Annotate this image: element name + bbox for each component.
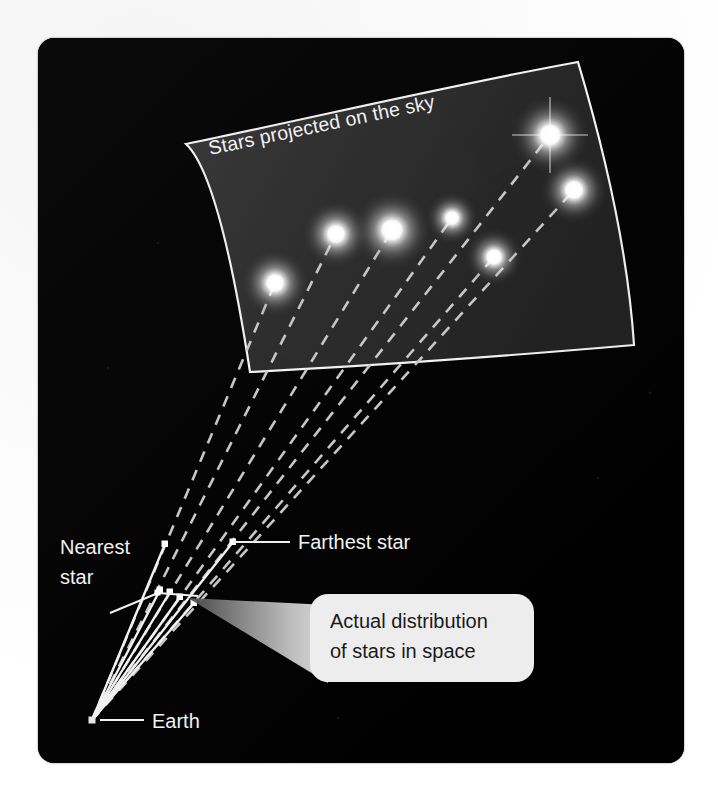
earth-label: Earth (152, 710, 200, 732)
callout-line-1: Actual distribution (330, 610, 488, 632)
projected-star-1 (239, 247, 311, 319)
earth-marker (89, 717, 96, 724)
page-root: Stars projected on the sky (0, 0, 718, 796)
nearest-star-marker (155, 590, 161, 596)
callout-line-2: of stars in space (330, 640, 476, 662)
nearest-star-label-line2: star (60, 566, 94, 588)
projected-star-7 (508, 93, 592, 177)
actual-star-dot-2 (162, 541, 169, 548)
projected-star-5 (463, 226, 525, 288)
farthest-star-label: Farthest star (298, 531, 411, 553)
figure-canvas: Stars projected on the sky (38, 38, 684, 763)
projected-star-3 (350, 188, 434, 272)
callout-box (310, 594, 534, 682)
nearest-star-label-line1: Nearest (60, 536, 130, 558)
astronomy-figure: Stars projected on the sky (38, 38, 684, 763)
